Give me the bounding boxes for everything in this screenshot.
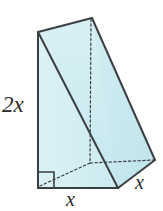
- label-depth-x: x: [135, 172, 144, 192]
- label-base-x: x: [66, 189, 75, 209]
- label-height-2x: 2x: [2, 93, 24, 116]
- geometry-figure: 2x x x: [0, 0, 163, 211]
